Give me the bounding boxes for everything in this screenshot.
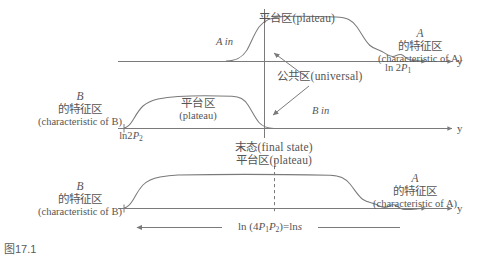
bottom-panel-y-axis-label: y bbox=[457, 202, 463, 214]
ln2p1-prefix: ln 2 bbox=[385, 62, 401, 73]
top-plateau-label: 平台区(plateau) bbox=[259, 12, 335, 25]
universal-region-label: 公共区(universal) bbox=[277, 70, 363, 83]
ln2p1-sub: 1 bbox=[407, 66, 411, 75]
bottom-characteristic-b-label: B的特征区 (characteristic of B) bbox=[38, 180, 122, 218]
middle-characteristic-b-label: B的特征区 (characteristic of B) bbox=[38, 90, 122, 128]
bottom-characteristic-a-label: A的特征区 (characteristic of A) bbox=[373, 172, 457, 210]
bottom-characteristic-a-cn-rest: 的特征区 bbox=[373, 185, 457, 198]
middle-panel-y-axis-label: y bbox=[457, 122, 463, 134]
middle-characteristic-b-en: (characteristic of B) bbox=[38, 116, 122, 128]
top-panel-y-axis-label: y bbox=[457, 55, 463, 67]
bottom-characteristic-b-en: (characteristic of B) bbox=[38, 206, 122, 218]
span-prefix: ln (4 bbox=[238, 220, 258, 232]
middle-tick-ln2p2-label: ln2P2 bbox=[119, 130, 143, 143]
ln2p2-prefix: ln2 bbox=[119, 130, 132, 141]
bottom-final-state-label: 末态(final state) bbox=[235, 141, 313, 154]
middle-plateau-en: (plateau) bbox=[179, 110, 216, 122]
figure-caption: 图17.1 bbox=[4, 240, 36, 256]
bottom-plateau-label: 平台区(plateau) bbox=[236, 154, 312, 167]
figure-17-1: 平台区(plateau) A in A的特征区 (characteristic … bbox=[0, 0, 486, 259]
bottom-characteristic-b-cn-rest: 的特征区 bbox=[38, 193, 122, 206]
span-p2: P bbox=[269, 220, 276, 232]
ln2p2-sub: 2 bbox=[139, 134, 143, 143]
universal-arrow-to-middle-curve bbox=[273, 86, 309, 115]
span-suffix: )=ln bbox=[279, 220, 297, 232]
middle-plateau-cn: 平台区 bbox=[179, 97, 216, 110]
span-s: s bbox=[298, 220, 302, 232]
characteristic-b-letter: B bbox=[76, 90, 83, 102]
top-a-in-label: A in bbox=[216, 36, 233, 48]
bottom-characteristic-a-en: (characteristic of A) bbox=[373, 198, 457, 210]
bottom-characteristic-a-letter: A bbox=[411, 172, 418, 184]
middle-b-in-label: B in bbox=[312, 105, 329, 117]
characteristic-a-cn-rest: 的特征区 bbox=[378, 40, 462, 53]
top-characteristic-a-label: A的特征区 (characteristic of A) bbox=[378, 27, 462, 65]
characteristic-a-letter: A bbox=[416, 27, 423, 39]
characteristic-b-cn-rest: 的特征区 bbox=[38, 103, 122, 116]
middle-plateau-label: 平台区 (plateau) bbox=[179, 97, 216, 122]
span-measure-label: ln (4P1P2)=lns bbox=[238, 220, 302, 234]
top-tick-ln2p1-label: ln 2P1 bbox=[385, 62, 411, 75]
bottom-characteristic-b-letter: B bbox=[76, 180, 83, 192]
